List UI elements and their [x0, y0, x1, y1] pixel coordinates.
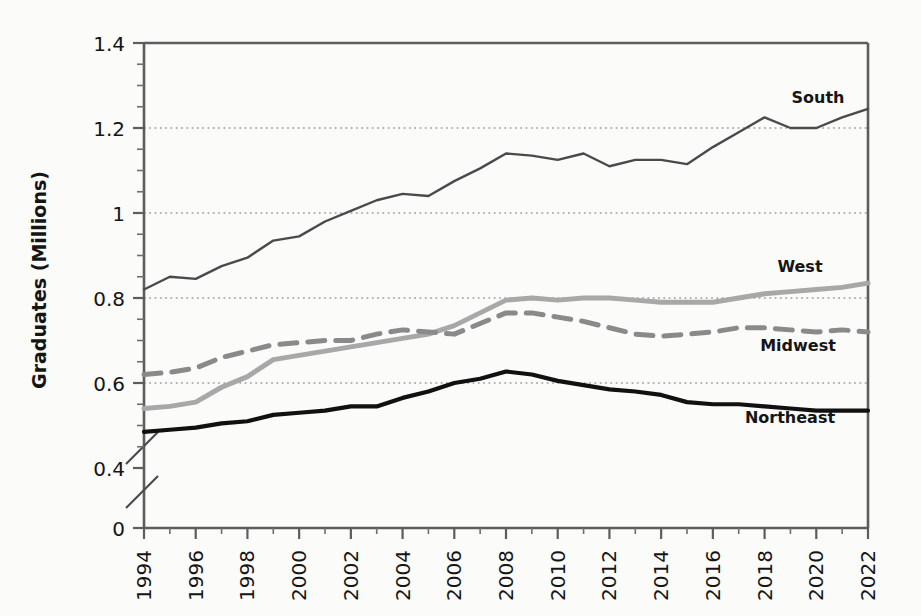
axis-break-mark [126, 476, 158, 508]
x-tick-label: 1996 [184, 550, 208, 601]
tick-marks-group [133, 43, 868, 539]
line-chart: 00.40.60.811.21.4 1994199619982000200220… [0, 0, 921, 616]
y-tick-label: 1 [112, 202, 125, 226]
y-tick-label: 1.2 [93, 117, 125, 141]
x-tick-label: 2012 [597, 550, 621, 601]
x-tick-label: 2006 [442, 550, 466, 601]
x-tick-label-text: 2018 [753, 550, 777, 601]
y-tick-label: 1.4 [93, 32, 125, 56]
x-tick-label-text: 1998 [235, 550, 259, 601]
x-tick-labels-group: 1994199619982000200220042006200820102012… [132, 550, 880, 601]
x-tick-label-text: 1996 [184, 550, 208, 601]
series-labels-group: SouthWestMidwestNortheast [745, 88, 845, 427]
axes-group [126, 43, 868, 528]
x-tick-label: 2010 [546, 550, 570, 601]
x-tick-label: 2020 [804, 550, 828, 601]
x-tick-label: 2016 [701, 550, 725, 601]
x-tick-label-text: 2012 [597, 550, 621, 601]
y-tick-label: 0.4 [93, 457, 125, 481]
y-tick-label: 0.8 [93, 287, 125, 311]
series-label-northeast: Northeast [745, 408, 835, 427]
x-tick-label-text: 2004 [391, 550, 415, 601]
y-tick-label: 0.6 [93, 372, 125, 396]
x-tick-label-text: 2000 [287, 550, 311, 601]
x-tick-label: 2002 [339, 550, 363, 601]
x-tick-label-text: 2016 [701, 550, 725, 601]
series-line-south [144, 109, 868, 290]
series-label-south: South [792, 88, 845, 107]
x-tick-label-text: 2008 [494, 550, 518, 601]
x-tick-label: 2018 [753, 550, 777, 601]
y-tick-label: 0 [112, 517, 125, 541]
y-tick-labels-group: 00.40.60.811.21.4 [93, 32, 125, 541]
x-tick-label-text: 2002 [339, 550, 363, 601]
chart-container: 00.40.60.811.21.4 1994199619982000200220… [0, 0, 921, 616]
series-label-midwest: Midwest [760, 336, 836, 355]
axis-break-mark [126, 432, 158, 464]
x-tick-label: 2014 [649, 550, 673, 601]
series-label-west: West [777, 257, 822, 276]
x-tick-label: 1994 [132, 550, 156, 601]
y-axis-title: Graduates (Millions) [28, 171, 50, 389]
x-tick-label-text: 2006 [442, 550, 466, 601]
x-tick-label-text: 2020 [804, 550, 828, 601]
x-tick-label: 2008 [494, 550, 518, 601]
x-tick-label-text: 2014 [649, 550, 673, 601]
x-tick-label-text: 1994 [132, 550, 156, 601]
x-tick-label-text: 2010 [546, 550, 570, 601]
x-tick-label: 2004 [391, 550, 415, 601]
x-tick-label: 2022 [856, 550, 880, 601]
x-tick-label: 2000 [287, 550, 311, 601]
x-tick-label: 1998 [235, 550, 259, 601]
x-tick-label-text: 2022 [856, 550, 880, 601]
